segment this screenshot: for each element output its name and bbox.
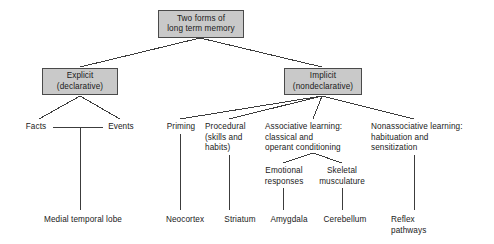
node-label-associative-learning: Associative learning: classical and oper… [265, 122, 361, 154]
memory-taxonomy-diagram: Two forms of long term memory Explicit (… [0, 0, 494, 244]
node-label-skeletal-musculature: Skeletal musculature [311, 166, 373, 187]
node-two-forms-long-term-memory: Two forms of long term memory [158, 10, 244, 38]
edge-explicit-to-events [80, 96, 120, 119]
node-label-priming: Priming [163, 122, 199, 133]
edge-root-to-implicit [200, 38, 322, 67]
node-label-amygdala: Amygdala [264, 215, 314, 226]
node-label-striatum: Striatum [219, 215, 261, 226]
edge-root-to-explicit [80, 38, 200, 67]
node-label-nonassociative-learning: Nonassociative learning: habituation and… [371, 122, 483, 154]
node-label-explicit-declarative: Explicit (declarative) [57, 71, 103, 92]
node-label-neocortex: Neocortex [161, 215, 209, 226]
node-label-reflex-pathways: Reflex pathways [391, 215, 435, 236]
node-label-medial-temporal-lobe: Medial temporal lobe [34, 215, 132, 226]
edge-implicit-to-procedural [229, 96, 322, 119]
node-label-cerebellum: Cerebellum [318, 215, 372, 226]
edge-implicit-to-priming [180, 96, 322, 119]
node-label-procedural-skills-and-habits: Procedural (skills and habits) [205, 122, 255, 154]
node-label-events: Events [103, 122, 139, 133]
node-implicit-nondeclarative: Implicit (nondeclarative) [284, 68, 362, 95]
node-label-two-forms-long-term-memory: Two forms of long term memory [167, 14, 235, 35]
node-label-facts: Facts [21, 122, 51, 133]
edge-implicit-to-associative [313, 96, 322, 119]
node-label-emotional-responses: Emotional responses [259, 166, 309, 187]
edge-explicit-to-facts [39, 96, 80, 119]
edge-associative-to-skeletal [313, 153, 342, 163]
edge-implicit-to-nonassociative [322, 96, 414, 119]
node-explicit-declarative: Explicit (declarative) [42, 68, 118, 95]
edge-associative-to-emotional [283, 153, 313, 163]
node-label-implicit-nondeclarative: Implicit (nondeclarative) [293, 71, 353, 92]
